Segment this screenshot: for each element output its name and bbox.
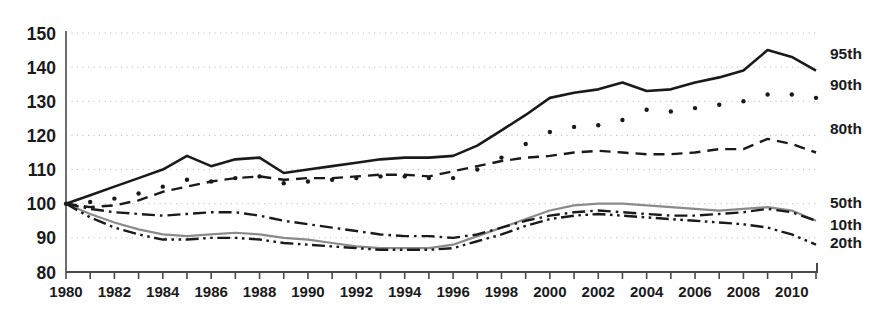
x-tick-label-1988: 1988 <box>243 283 276 300</box>
series-point <box>669 109 673 113</box>
x-tick-label-1980: 1980 <box>49 283 82 300</box>
x-tick-label-1990: 1990 <box>291 283 324 300</box>
series-point <box>741 99 745 103</box>
series-point <box>548 130 552 134</box>
series-point <box>378 174 382 178</box>
series-point <box>765 92 769 96</box>
x-tick-label-1992: 1992 <box>340 283 373 300</box>
percentile-trend-chart: 8090100110120130140150 19801982198419861… <box>0 0 887 328</box>
x-tick-label-1982: 1982 <box>98 283 131 300</box>
series-label-10th: 10th <box>830 216 862 233</box>
series-line <box>66 204 816 248</box>
series-95th <box>66 50 816 204</box>
x-axis-tick-labels: 1980198219841986198819901992199419961998… <box>49 283 808 300</box>
y-tick-label-120: 120 <box>27 126 56 146</box>
y-tick-label-90: 90 <box>37 228 57 248</box>
data-series-group <box>64 50 818 250</box>
series-point <box>499 155 503 159</box>
series-line <box>66 50 816 204</box>
series-point <box>451 176 455 180</box>
y-tick-label-100: 100 <box>27 194 56 214</box>
series-point <box>112 196 116 200</box>
y-tick-label-140: 140 <box>27 58 56 78</box>
series-labels-group: 95th90th80th50th10th20th <box>830 45 862 251</box>
series-point <box>717 103 721 107</box>
x-tick-label-1996: 1996 <box>436 283 469 300</box>
series-50th <box>66 204 816 248</box>
x-tick-label-2006: 2006 <box>678 283 711 300</box>
series-point <box>136 191 140 195</box>
x-tick-label-2008: 2008 <box>727 283 760 300</box>
series-point <box>693 106 697 110</box>
x-tick-label-2010: 2010 <box>775 283 808 300</box>
series-point <box>572 125 576 129</box>
series-label-90th: 90th <box>830 76 862 93</box>
series-label-50th: 50th <box>830 194 862 211</box>
series-80th <box>66 139 816 207</box>
series-point <box>644 108 648 112</box>
axes-group <box>66 31 818 279</box>
y-tick-label-80: 80 <box>37 263 57 283</box>
series-point <box>814 96 818 100</box>
series-label-80th: 80th <box>830 120 862 137</box>
series-point <box>88 200 92 204</box>
x-tick-label-1984: 1984 <box>146 283 180 300</box>
y-tick-label-110: 110 <box>28 160 56 180</box>
x-tick-label-2000: 2000 <box>533 283 566 300</box>
series-20th <box>66 204 816 250</box>
series-point <box>282 181 286 185</box>
y-tick-label-150: 150 <box>27 24 56 44</box>
x-tick-label-1986: 1986 <box>194 283 227 300</box>
series-point <box>523 142 527 146</box>
y-axis-tick-labels: 8090100110120130140150 <box>27 24 56 283</box>
series-point <box>620 118 624 122</box>
series-point <box>185 178 189 182</box>
x-tick-label-1994: 1994 <box>388 283 422 300</box>
series-point <box>161 184 165 188</box>
series-line <box>66 139 816 207</box>
series-line <box>66 204 816 250</box>
series-point <box>306 179 310 183</box>
series-point <box>790 92 794 96</box>
series-point <box>596 123 600 127</box>
chart-canvas: 8090100110120130140150 19801982198419861… <box>0 0 887 328</box>
gridlines-group <box>66 33 816 238</box>
series-point <box>475 167 479 171</box>
series-label-20th: 20th <box>830 234 862 251</box>
x-tick-label-2002: 2002 <box>582 283 615 300</box>
x-tick-label-1998: 1998 <box>485 283 518 300</box>
x-tick-label-2004: 2004 <box>630 283 664 300</box>
series-label-95th: 95th <box>830 45 862 62</box>
y-tick-label-130: 130 <box>27 92 56 112</box>
